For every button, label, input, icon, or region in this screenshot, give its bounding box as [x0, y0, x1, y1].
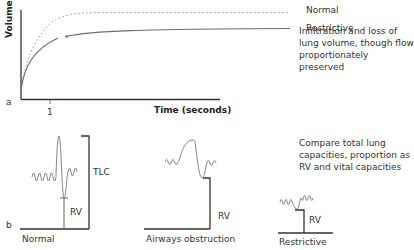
panel-b-letter: b — [6, 220, 12, 231]
legend-normal: Normal — [306, 5, 339, 16]
y-axis-label: Volume — [4, 0, 14, 38]
obstruction-rv-label: RV — [218, 211, 230, 222]
restrictive-title: Restrictive — [279, 237, 327, 248]
normal-curve — [21, 13, 290, 91]
restrictive-rv-label: RV — [309, 215, 321, 226]
restrictive-curve — [21, 38, 58, 90]
restrictive-curve-plateau — [66, 29, 290, 37]
obstruction-spirogram — [144, 140, 216, 229]
x-tick-label: 1 — [47, 107, 53, 118]
normal-title: Normal — [22, 234, 55, 245]
panel-a-axes — [21, 10, 220, 104]
tlc-label: TLC — [93, 167, 110, 178]
panel-a-annotation: Infiltration and loss of lung volume, th… — [299, 25, 414, 73]
x-axis-label: Time (seconds) — [154, 105, 231, 116]
panel-a-letter: a — [6, 97, 12, 108]
obstruction-title: Airways obstruction — [146, 234, 235, 245]
panel-b-annotation: Compare total lung capacities, proportio… — [299, 137, 414, 173]
normal-rv-label: RV — [70, 207, 82, 218]
restrictive-spirogram — [278, 196, 333, 234]
